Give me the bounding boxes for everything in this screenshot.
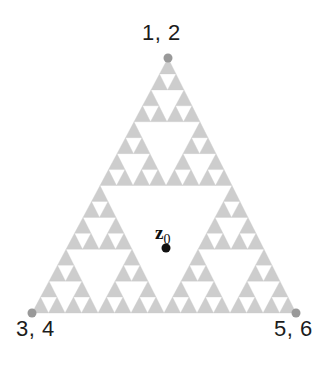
fractal-cell — [190, 249, 207, 265]
fractal-cell — [272, 281, 289, 297]
fractal-cell — [82, 297, 99, 313]
fractal-cell — [230, 297, 247, 313]
fractal-cell — [140, 281, 157, 297]
fractal-cell — [199, 170, 216, 186]
fractal-cell — [248, 233, 265, 249]
fractal-cell — [231, 233, 248, 249]
fractal-cell — [134, 138, 151, 154]
fractal-cell — [49, 265, 66, 281]
fractal-cell — [143, 90, 160, 106]
fractal-cell — [175, 154, 192, 170]
fractal-cell — [240, 217, 257, 233]
fractal-cell — [166, 170, 183, 186]
figure-root: 1, 2 3, 4 5, 6 z0 — [0, 0, 335, 375]
fractal-cell — [131, 297, 148, 313]
fractal-cell — [109, 154, 126, 170]
fractal-cell — [181, 265, 198, 281]
fractal-cell — [164, 297, 181, 313]
fractal-cell — [98, 297, 115, 313]
fractal-cell — [132, 265, 149, 281]
fractal-cell — [206, 281, 223, 297]
fractal-cell — [183, 138, 200, 154]
fractal-cell — [124, 249, 141, 265]
fractal-cell — [108, 217, 125, 233]
fractal-cell — [133, 170, 150, 186]
fractal-cell — [92, 186, 109, 202]
vertex-label-apex: 1, 2 — [142, 22, 181, 44]
fractal-cell — [214, 297, 231, 313]
fractal-cell — [41, 281, 58, 297]
fractal-cell — [224, 186, 241, 202]
fractal-cell — [75, 217, 92, 233]
fractal-cell — [167, 106, 184, 122]
fractal-cell — [232, 201, 249, 217]
fractal-cell — [151, 74, 168, 90]
fractal-cell — [197, 297, 214, 313]
fractal-cell — [215, 233, 232, 249]
fractal-cell — [181, 297, 198, 313]
vertex-dot-apex — [164, 54, 173, 63]
fractal-cell — [151, 106, 168, 122]
fractal-cell — [184, 106, 201, 122]
fractal-cell — [216, 170, 233, 186]
fractal-triangles-group — [32, 58, 296, 313]
fractal-cell — [117, 138, 134, 154]
fractal-cell — [58, 249, 75, 265]
z-subscript: 0 — [163, 232, 170, 247]
fractal-cell — [176, 90, 193, 106]
fractal-cell — [247, 297, 264, 313]
fractal-cell — [65, 297, 82, 313]
fractal-cell — [66, 233, 83, 249]
fractal-cell — [115, 297, 132, 313]
interior-point-label-z0: z0 — [155, 223, 170, 247]
fractal-cell — [264, 265, 281, 281]
fractal-cell — [126, 122, 143, 138]
fractal-cell — [215, 201, 232, 217]
fractal-cell — [99, 233, 116, 249]
vertex-label-bottom-left: 3, 4 — [16, 318, 55, 340]
fractal-cell — [49, 297, 66, 313]
fractal-cell — [150, 170, 167, 186]
fractal-cell — [198, 233, 215, 249]
fractal-cell — [263, 297, 280, 313]
fractal-cell — [256, 249, 273, 265]
fractal-cell — [134, 106, 151, 122]
fractal-cell — [83, 201, 100, 217]
fractal-cell — [100, 170, 117, 186]
fractal-cell — [192, 122, 209, 138]
fractal-cell — [83, 233, 100, 249]
fractal-cell — [117, 170, 134, 186]
fractal-cell — [247, 265, 264, 281]
fractal-cell — [173, 281, 190, 297]
fractal-cell — [183, 170, 200, 186]
fractal-cell — [100, 201, 117, 217]
fractal-cell — [207, 217, 224, 233]
fractal-cell — [107, 281, 124, 297]
fractal-cell — [115, 265, 132, 281]
fractal-cell — [148, 297, 165, 313]
fractal-cell — [66, 265, 83, 281]
fractal-cell — [239, 281, 256, 297]
fractal-cell — [208, 154, 225, 170]
vertex-label-bottom-right: 5, 6 — [274, 318, 313, 340]
fractal-cell — [116, 233, 133, 249]
fractal-cell — [74, 281, 91, 297]
fractal-cell — [168, 74, 185, 90]
fractal-cell — [142, 154, 159, 170]
fractal-cell — [198, 265, 215, 281]
fractal-cell — [200, 138, 217, 154]
